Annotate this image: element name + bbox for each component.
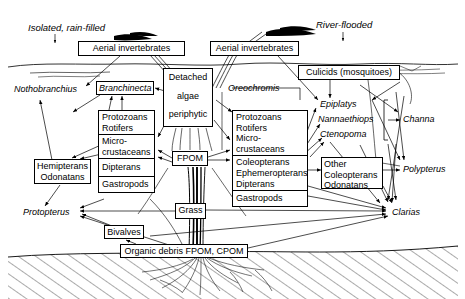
box-bivalves[interactable]: Bivalves bbox=[104, 225, 144, 239]
protozoans-label-right: Protozoans bbox=[236, 112, 305, 123]
detached-algae-line3: periphytic bbox=[166, 109, 210, 120]
rotifers-label-right: Rotifers bbox=[236, 123, 305, 134]
label-clarias: Clarias bbox=[392, 207, 420, 217]
label-protopterus: Protopterus bbox=[23, 207, 70, 217]
label-isolated-rain-filled: Isolated, rain-filled bbox=[28, 22, 105, 33]
box-aerial-invertebrates-right[interactable]: Aerial invertebrates bbox=[210, 41, 299, 56]
box-hemipterans-odonatans[interactable]: Hemipterans Odonatans bbox=[34, 159, 91, 184]
cell-protozoans-rotifers[interactable]: Protozoans Rotifers bbox=[99, 111, 154, 135]
ephemeropterans-label: Ephemeropterans bbox=[236, 168, 305, 179]
crustaceans-label: crustaceans bbox=[102, 147, 152, 158]
detached-algae-line1: Detached bbox=[166, 72, 210, 83]
label-river-flooded: River-flooded bbox=[316, 19, 372, 30]
micro-label: Micro- bbox=[102, 136, 152, 147]
box-detached-algae-periphytic[interactable]: Detached algae periphytic bbox=[163, 68, 213, 127]
other-line1: Other bbox=[324, 159, 380, 170]
right-invertebrate-stack[interactable]: Protozoans Rotifers Micro- crustaceans C… bbox=[232, 110, 308, 207]
arrow-debris-to-clarias bbox=[248, 216, 388, 248]
arrow-grass-to-clarias bbox=[205, 210, 386, 211]
rotifers-label: Rotifers bbox=[102, 123, 152, 134]
label-nothobranchius: Nothobranchius bbox=[14, 84, 77, 94]
crustaceans-label-right: crustaceans bbox=[236, 144, 305, 155]
coleopterans-label: Coleopterans bbox=[236, 157, 305, 168]
box-culicids[interactable]: Culicids (mosquitoes) bbox=[298, 65, 400, 80]
micro-label-right: Micro- bbox=[236, 133, 305, 144]
left-invertebrate-stack[interactable]: Protozoans Rotifers Micro- crustaceans D… bbox=[98, 110, 155, 193]
cell-dipterans[interactable]: Dipterans bbox=[99, 159, 154, 177]
arrow-fpom-to-microcrustaceans bbox=[158, 150, 172, 158]
box-organic-debris[interactable]: Organic debris FPOM, CPOM bbox=[120, 244, 248, 258]
box-branchinecta[interactable]: Branchinecta bbox=[96, 81, 154, 95]
cell-gastropods-right[interactable]: Gastropods bbox=[233, 191, 307, 206]
label-oreochromis: Oreochromis bbox=[228, 83, 280, 93]
arrow-hemipterans-to-protopterus bbox=[45, 185, 60, 206]
protozoans-label: Protozoans bbox=[102, 112, 152, 123]
cell-gastropods[interactable]: Gastropods bbox=[99, 177, 154, 192]
label-channa: Channa bbox=[403, 114, 435, 124]
label-epiplatys: Epiplatys bbox=[320, 99, 357, 109]
other-line3: Odonatans bbox=[324, 180, 380, 191]
box-other-coleopterans-odonatans[interactable]: Other Coleopterans Odonatans bbox=[321, 157, 383, 189]
detached-algae-line2: algae bbox=[166, 91, 210, 102]
arrow-fpom-to-right-stack bbox=[208, 150, 230, 157]
label-nannaethiops: Nannaethiops bbox=[318, 114, 374, 124]
fish-group-bracket bbox=[384, 100, 388, 140]
cell-coleopterans-ephemeropterans-dipterans[interactable]: Coleopterans Ephemeropterans Dipterans bbox=[233, 156, 307, 191]
arrow-hemipterans-to-nothobranchius bbox=[40, 100, 52, 160]
cell-micro-crustaceans[interactable]: Micro- crustaceans bbox=[99, 135, 154, 159]
hemipterans-line1: Hemipterans bbox=[37, 161, 88, 172]
other-line2: Coleopterans bbox=[324, 170, 380, 181]
food-web-diagram: Isolated, rain-filled River-flooded Aeri… bbox=[0, 0, 465, 299]
dipterans-label-right: Dipterans bbox=[236, 179, 305, 190]
label-ctenopoma: Ctenopoma bbox=[320, 129, 367, 139]
box-aerial-invertebrates-left[interactable]: Aerial invertebrates bbox=[78, 41, 185, 56]
hemipterans-line2: Odonatans bbox=[37, 172, 88, 183]
box-fpom[interactable]: FPOM bbox=[172, 151, 208, 166]
box-grass[interactable]: Grass bbox=[175, 203, 206, 219]
cell-protozoans-rotifers-micro[interactable]: Protozoans Rotifers Micro- crustaceans bbox=[233, 111, 307, 156]
label-polypterus: Polypterus bbox=[403, 164, 446, 174]
